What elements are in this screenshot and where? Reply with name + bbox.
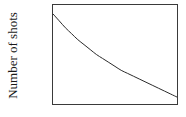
plot-area-frame	[52, 4, 178, 105]
y-axis-label-container: Number of shots	[0, 5, 24, 105]
chart-figure: Number of shots	[0, 0, 186, 117]
decay-curve-line	[53, 14, 177, 97]
y-axis-label: Number of shots	[6, 12, 19, 99]
decay-curve-svg	[53, 5, 177, 104]
